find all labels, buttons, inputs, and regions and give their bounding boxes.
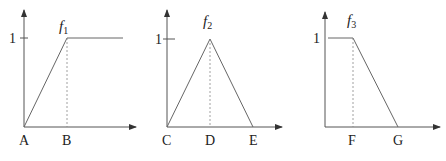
x-label-C: C [162, 133, 171, 148]
y-tick-label: 1 [155, 32, 162, 47]
y-tick-label: 1 [9, 31, 16, 46]
function-label: f3 [347, 12, 356, 30]
panel-f2: 1 f2 C D E [155, 10, 282, 148]
membership-functions-diagram: 1 f1 A B 1 f2 C D E 1 f3 F G [0, 0, 446, 161]
f3-curve [328, 38, 398, 127]
y-tick-label: 1 [313, 31, 320, 46]
x-label-D: D [205, 133, 215, 148]
panel-f3: 1 f3 F G [313, 12, 440, 148]
x-label-F: F [348, 133, 356, 148]
x-label-B: B [62, 133, 71, 148]
x-label-E: E [249, 133, 258, 148]
x-label-A: A [19, 133, 30, 148]
panel-f1: 1 f1 A B [9, 10, 136, 148]
f1-curve [24, 38, 123, 127]
x-label-G: G [393, 133, 403, 148]
function-label: f1 [59, 18, 68, 36]
function-label: f2 [203, 13, 212, 31]
